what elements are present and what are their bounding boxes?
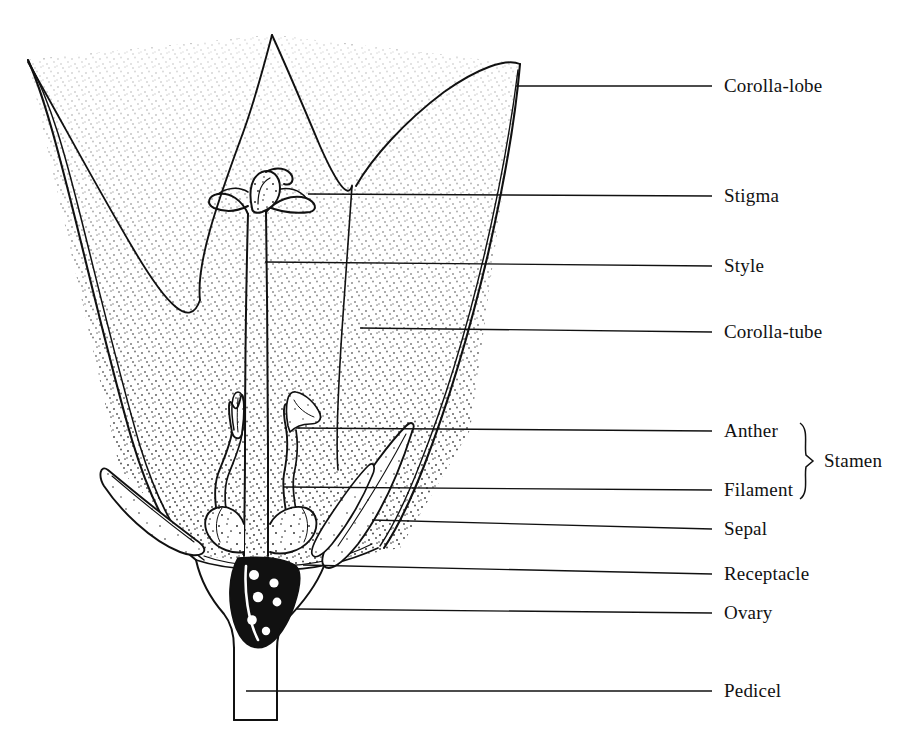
corolla [0,0,920,745]
label-stigma: Stigma [724,186,779,205]
label-corolla-lobe: Corolla-lobe [724,76,822,95]
label-corolla-tube: Corolla-tube [724,322,822,341]
flower-section-drawing [0,0,920,745]
ovule [269,578,278,587]
label-style: Style [724,256,764,275]
leader-line-receptacle [303,565,712,574]
label-receptacle: Receptacle [724,564,809,583]
label-pedicel: Pedicel [724,681,781,700]
leader-line-sepal [372,520,712,529]
ovule [262,627,270,635]
label-anther: Anther [724,421,778,440]
receptacle-left [196,560,234,648]
label-filament: Filament [724,480,793,499]
ovule [273,598,282,607]
figure-canvas: Corolla-lobeStigmaStyleCorolla-tubeAnthe… [0,0,920,745]
ovule [253,592,263,602]
label-sepal: Sepal [724,519,767,538]
brace-stamen [800,423,813,499]
leader-line-ovary [297,609,712,613]
ovary-group [230,557,300,647]
group-braces [800,423,813,499]
label-group-stamen: Stamen [824,451,882,470]
ovule [249,570,259,580]
label-ovary: Ovary [724,603,772,622]
